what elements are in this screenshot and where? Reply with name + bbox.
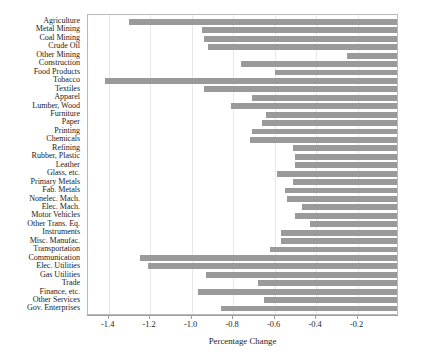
bar (252, 95, 398, 101)
plot-area (87, 14, 398, 315)
bar-row (88, 85, 397, 93)
x-tick-mark (232, 315, 233, 319)
bar (310, 221, 398, 227)
x-axis-title: Percentage Change (87, 336, 398, 346)
bar-row (88, 35, 397, 43)
bar-series (88, 18, 397, 311)
bar-row (88, 128, 397, 136)
bar-row (88, 77, 397, 85)
x-axis-line (87, 315, 398, 316)
bar-row (88, 305, 397, 313)
bar (264, 297, 398, 303)
bar-row (88, 254, 397, 262)
bar (198, 289, 398, 295)
bar (293, 179, 398, 185)
bar (277, 171, 398, 177)
bar (262, 120, 398, 126)
bar-row (88, 203, 397, 211)
x-tick-label: -0.4 (295, 320, 335, 330)
bar (295, 213, 398, 219)
bar (281, 238, 398, 244)
bar-row (88, 262, 397, 270)
bar-row (88, 18, 397, 26)
bar (302, 204, 398, 210)
bar (204, 86, 398, 92)
bar-row (88, 220, 397, 228)
bar (295, 154, 398, 160)
bar (221, 306, 398, 312)
bar (105, 78, 398, 84)
bar (281, 230, 398, 236)
bar-row (88, 237, 397, 245)
bar-row (88, 195, 397, 203)
x-tick-label: -1.0 (171, 320, 211, 330)
bar (266, 112, 398, 118)
bar-row (88, 187, 397, 195)
bar-row (88, 279, 397, 287)
bar-row (88, 94, 397, 102)
bar (231, 103, 398, 109)
bar (275, 70, 398, 76)
bar-row (88, 178, 397, 186)
bar (206, 272, 398, 278)
bar (295, 162, 398, 168)
bar (204, 36, 398, 42)
bar (241, 61, 398, 67)
x-tick-label: -0.6 (254, 320, 294, 330)
bar-row (88, 69, 397, 77)
bar-row (88, 170, 397, 178)
bar-row (88, 229, 397, 237)
x-tick-mark (274, 315, 275, 319)
bar-row (88, 288, 397, 296)
x-tick-mark (191, 315, 192, 319)
x-tick-label: -1.4 (88, 320, 128, 330)
bar-row (88, 246, 397, 254)
x-tick-mark (108, 315, 109, 319)
category-label: Gov. Enterprises (0, 304, 83, 312)
bar (129, 19, 398, 25)
bar-row (88, 271, 397, 279)
bar-row (88, 52, 397, 60)
bar-row (88, 119, 397, 127)
bar-row (88, 144, 397, 152)
bar-row (88, 212, 397, 220)
bar (347, 53, 398, 59)
x-tick-label: -0.8 (212, 320, 252, 330)
x-tick-label: -0.2 (337, 320, 377, 330)
bar-row (88, 136, 397, 144)
x-tick-mark (357, 315, 358, 319)
bar (270, 247, 398, 253)
bar-row (88, 43, 397, 51)
bar-row (88, 60, 397, 68)
bar-row (88, 102, 397, 110)
bar-row (88, 296, 397, 304)
bar (293, 145, 398, 151)
bar-row (88, 161, 397, 169)
bar-chart: AgricultureMetal MiningCoal MiningCrude … (0, 0, 434, 361)
bar (287, 196, 398, 202)
bar-row (88, 111, 397, 119)
bar (258, 280, 398, 286)
x-tick-mark (315, 315, 316, 319)
x-tick-mark (149, 315, 150, 319)
x-tick-label: -1.2 (129, 320, 169, 330)
bar (140, 255, 398, 261)
bar-row (88, 26, 397, 34)
bar-row (88, 153, 397, 161)
category-axis-labels: AgricultureMetal MiningCoal MiningCrude … (0, 17, 83, 313)
bar (252, 129, 398, 135)
bar (250, 137, 398, 143)
bar (148, 263, 398, 269)
bar (208, 44, 398, 50)
bar (202, 27, 398, 33)
bar (285, 188, 398, 194)
